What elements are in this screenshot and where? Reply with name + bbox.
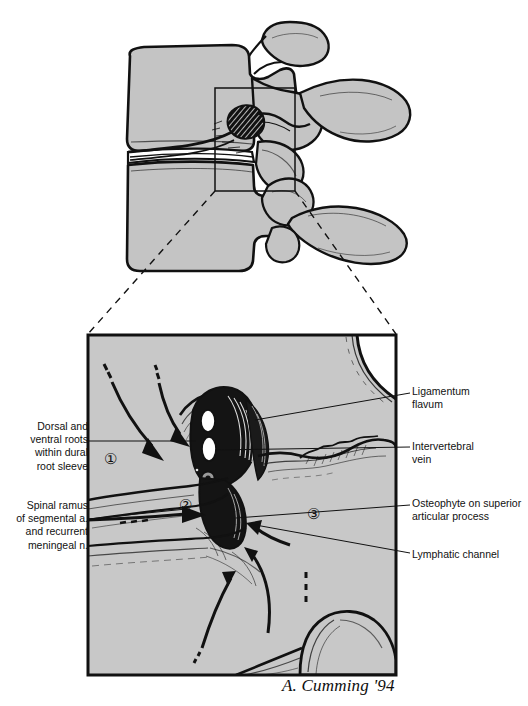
callout-number-2: ②: [179, 498, 192, 511]
label-dorsal-ventral-roots: Dorsal and ventral roots within dural ro…: [10, 420, 88, 473]
lower-mamillary-process: [266, 226, 299, 262]
ventral-root-lumen: [202, 437, 216, 461]
overview-vertebrae: [127, 22, 410, 271]
label-intervertebral-vein: Intervertebral vein: [412, 440, 524, 466]
label-ligamentum-flavum: Ligamentum flavum: [412, 385, 524, 411]
label-lymphatic-channel: Lymphatic channel: [412, 548, 528, 561]
callout-number-3: ③: [307, 507, 320, 520]
anatomical-figure: Dorsal and ventral roots within dural ro…: [0, 0, 528, 706]
callout-number-1: ①: [104, 452, 117, 465]
disc-herniation-hatched: [228, 105, 265, 139]
label-spinal-ramus: Spinal ramus of segmental a. and recurre…: [4, 499, 88, 552]
artist-signature: A. Cumming '94: [282, 676, 395, 696]
lower-transverse-process: [288, 206, 407, 263]
magnified-panel-group: [88, 335, 396, 675]
figure-canvas: [0, 0, 528, 706]
dorsal-root-lumen: [201, 410, 215, 432]
label-osteophyte-superior-articular-process: Osteophyte on superior articular process: [412, 497, 528, 523]
upper-superior-articular-process: [262, 22, 329, 66]
